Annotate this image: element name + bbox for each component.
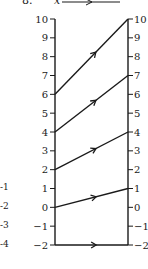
right-tick-label: 3 bbox=[134, 145, 140, 156]
left-tick-label: 10 bbox=[35, 14, 48, 25]
left-tick-label: −2 bbox=[33, 240, 48, 251]
right-tick-label: 9 bbox=[134, 32, 140, 43]
mapping-line bbox=[55, 132, 128, 170]
right-tick-label: 4 bbox=[134, 127, 140, 138]
right-tick-label: 0 bbox=[134, 202, 140, 213]
right-tick-label: −2 bbox=[134, 240, 148, 251]
right-tick-label: 1 bbox=[134, 183, 140, 194]
left-tick-label: 1 bbox=[42, 183, 48, 194]
left-tick-label: 8 bbox=[42, 51, 48, 62]
right-tick-label: 10 bbox=[134, 14, 147, 25]
left-tick-label: 4 bbox=[42, 127, 48, 138]
mapping-line bbox=[55, 19, 128, 94]
right-tick-label: 7 bbox=[134, 70, 140, 81]
left-tick-label: 0 bbox=[42, 202, 48, 213]
left-tick-label: 5 bbox=[42, 108, 48, 119]
right-tick-label: 5 bbox=[134, 108, 140, 119]
left-tick-label: −1 bbox=[33, 221, 48, 232]
mapping-diagram: −2−1012345678910−2−1012345678910 bbox=[0, 0, 148, 269]
left-tick-label: 3 bbox=[42, 145, 48, 156]
right-tick-label: −1 bbox=[134, 221, 148, 232]
left-tick-label: 7 bbox=[42, 70, 48, 81]
left-tick-label: 6 bbox=[42, 89, 48, 100]
right-tick-label: 6 bbox=[134, 89, 140, 100]
right-tick-label: 8 bbox=[134, 51, 140, 62]
left-tick-label: 9 bbox=[42, 32, 48, 43]
left-tick-label: 2 bbox=[42, 164, 48, 175]
right-tick-label: 2 bbox=[134, 164, 140, 175]
mapping-line bbox=[55, 189, 128, 208]
